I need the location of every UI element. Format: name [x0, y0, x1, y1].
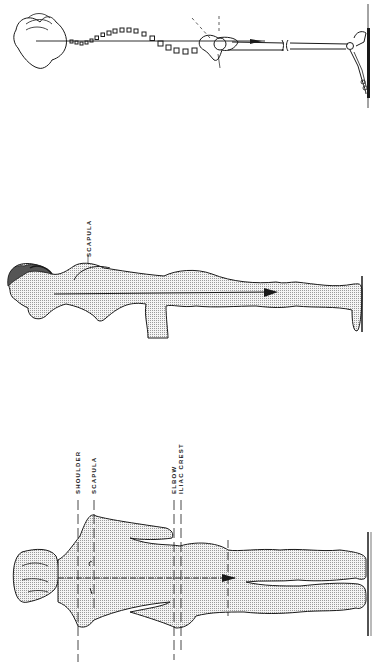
line-arrow	[250, 39, 262, 44]
head-posterior	[13, 549, 59, 602]
lateral-scapula-label: SCAPULA	[86, 220, 92, 257]
tibia	[290, 43, 348, 49]
ground-line	[367, 28, 370, 98]
hip-joint	[214, 38, 226, 50]
knee	[282, 40, 288, 51]
posterior-iliac-crest-label: ILIAC CREST	[178, 443, 184, 494]
posterior-view	[13, 500, 371, 662]
lateral-body-outline	[9, 263, 363, 338]
posture-diagram	[0, 0, 376, 672]
posterior-elbow-label: ELBOW	[171, 466, 177, 494]
heel	[354, 32, 366, 46]
skeletal-side-view	[14, 4, 370, 108]
posterior-scapula-label: SCAPULA	[91, 457, 97, 494]
posterior-shoulder-label: SHOULDER	[75, 451, 81, 494]
skull-outline	[14, 17, 67, 69]
foot-bones	[350, 50, 366, 94]
posterior-body-outline	[58, 515, 366, 628]
lateral-view	[8, 263, 362, 338]
femur	[228, 42, 284, 50]
